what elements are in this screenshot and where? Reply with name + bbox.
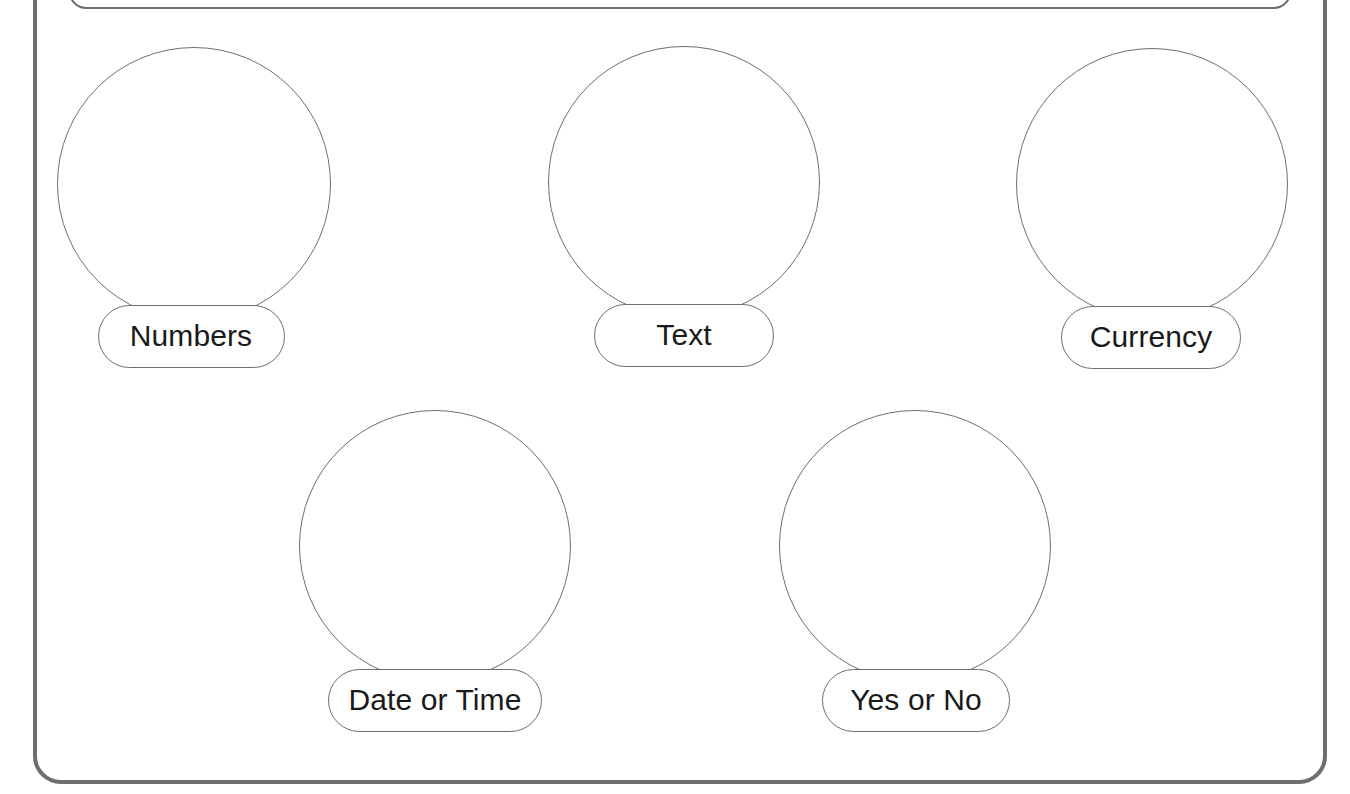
inner-rounded-panel bbox=[70, 0, 1290, 8]
node-label-currency: Currency bbox=[1090, 322, 1213, 352]
node-bubble-text[interactable] bbox=[548, 46, 820, 318]
node-pill-date-or-time[interactable]: Date or Time bbox=[328, 669, 542, 732]
node-bubble-date-or-time[interactable] bbox=[299, 410, 571, 682]
node-bubble-numbers[interactable] bbox=[57, 47, 331, 321]
node-bubble-yes-or-no[interactable] bbox=[779, 410, 1051, 682]
node-pill-yes-or-no[interactable]: Yes or No bbox=[822, 669, 1010, 732]
node-pill-numbers[interactable]: Numbers bbox=[98, 305, 285, 368]
node-pill-text[interactable]: Text bbox=[594, 304, 774, 367]
node-label-text: Text bbox=[656, 320, 711, 350]
node-label-date-or-time: Date or Time bbox=[349, 685, 522, 715]
diagram-canvas: NumbersTextCurrencyDate or TimeYes or No bbox=[0, 0, 1350, 794]
node-pill-currency[interactable]: Currency bbox=[1061, 306, 1241, 369]
node-label-yes-or-no: Yes or No bbox=[850, 685, 982, 715]
node-label-numbers: Numbers bbox=[130, 321, 252, 351]
node-bubble-currency[interactable] bbox=[1016, 48, 1288, 320]
